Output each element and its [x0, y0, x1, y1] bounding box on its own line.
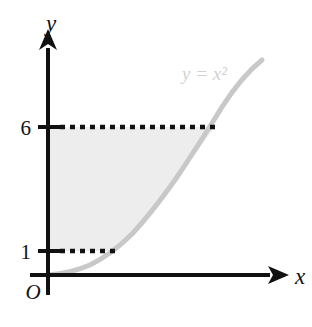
curve-equation-label: y = x²: [180, 63, 227, 84]
x-axis-label: x: [294, 264, 306, 289]
parabola-plot: 6 1 O y x y = x²: [0, 0, 312, 327]
y-tick-label-1: 1: [21, 240, 32, 264]
y-tick-label-6: 6: [21, 116, 32, 140]
y-axis-label: y: [44, 11, 57, 36]
figure-container: 6 1 O y x y = x²: [0, 0, 312, 327]
origin-label: O: [25, 280, 40, 304]
